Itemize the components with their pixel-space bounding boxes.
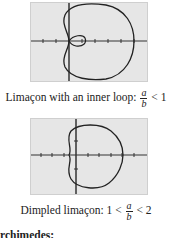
caption-dimpled: Dimpled limaçon: 1 < ab < 2 bbox=[0, 201, 172, 222]
caption-suffix: < 2 bbox=[134, 204, 152, 216]
limacon-inner-loop-plot bbox=[31, 3, 147, 81]
fraction-denominator: b bbox=[126, 212, 133, 222]
fraction-denominator: b bbox=[140, 99, 147, 109]
fraction-a-over-b: ab bbox=[126, 201, 133, 222]
caption-text: Dimpled limaçon: 1 < bbox=[20, 204, 124, 216]
caption-inner-loop: Limaçon with an inner loop: ab < 1 bbox=[0, 88, 172, 109]
dimpled-limacon-plot bbox=[31, 119, 147, 194]
graph-dimpled-limacon bbox=[30, 118, 148, 195]
caption-suffix: < 1 bbox=[148, 91, 166, 103]
section-heading-partial: rchimedes: bbox=[0, 229, 54, 238]
caption-text: Limaçon with an inner loop: bbox=[6, 91, 140, 103]
fraction-a-over-b: ab bbox=[140, 88, 147, 109]
graph-inner-loop-limacon bbox=[30, 2, 148, 82]
